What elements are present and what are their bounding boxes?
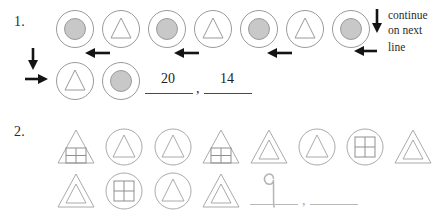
arrow-down-icon (371, 9, 383, 33)
shape-triangle-with-triangle (200, 170, 242, 212)
answer-blank-2a[interactable] (250, 203, 298, 205)
continue-note-line-1: continue (388, 9, 428, 23)
shape-triangle-with-triangle (55, 170, 97, 212)
continue-note-line-3: line (388, 41, 405, 55)
answer-blank-2b[interactable] (310, 203, 358, 205)
shape-triangle-with-triangle (248, 126, 290, 168)
arrow-left-icon (267, 47, 293, 59)
problem-number-1: 1. (14, 14, 25, 30)
shape-circle-with-triangle (152, 126, 194, 168)
shape-circle-with-filled-dot (54, 8, 96, 50)
answer-separator-1: , (196, 81, 200, 97)
shape-triangle-with-grid (55, 126, 97, 168)
answer-value-1a[interactable]: 20 (147, 71, 189, 87)
arrow-right-icon (25, 73, 49, 85)
continue-note-line-2: on next (388, 24, 422, 38)
shape-circle-with-filled-dot (100, 60, 142, 102)
arrow-left-icon (85, 47, 111, 59)
problem-number-2: 2. (14, 124, 25, 140)
worksheet-page: 1. continue on next line (0, 0, 444, 215)
shape-circle-with-grid (103, 170, 145, 212)
arrow-left-icon (354, 45, 378, 57)
shape-triangle-with-triangle (392, 126, 434, 168)
shape-circle-with-triangle (192, 8, 234, 50)
answer-separator-2: , (302, 193, 306, 209)
shape-circle-with-triangle (54, 60, 96, 102)
arrow-down-icon (27, 48, 39, 70)
shape-circle-with-filled-dot (146, 8, 188, 50)
answer-value-1b[interactable]: 14 (206, 71, 248, 87)
shape-triangle-with-grid (200, 126, 242, 168)
answer-blank-1b[interactable] (204, 92, 252, 94)
shape-circle-with-triangle (296, 126, 338, 168)
shape-circle-with-grid (344, 126, 386, 168)
shape-circle-with-filled-dot (330, 8, 372, 50)
shape-circle-with-triangle (100, 8, 142, 50)
answer-blank-1a[interactable] (145, 92, 193, 94)
shape-circle-with-triangle (152, 170, 194, 212)
shape-circle-with-triangle (103, 126, 145, 168)
arrow-left-icon (174, 47, 200, 59)
shape-circle-with-triangle (284, 8, 326, 50)
shape-circle-with-filled-dot (238, 8, 280, 50)
